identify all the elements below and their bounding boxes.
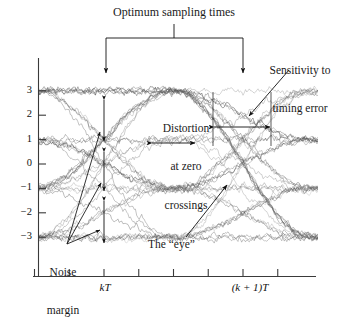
distortion-label: Distortion at zero crossings: [150, 96, 222, 238]
distortion-label-line1: Distortion: [150, 122, 222, 135]
y-tick-label-4: −1: [2, 181, 32, 192]
distortion-label-line3: crossings: [150, 199, 222, 212]
noise-margin-label-line1: Noise: [38, 266, 88, 279]
optimum-sampling-bracket: [106, 24, 243, 73]
x-axis-label-kT: kT: [78, 281, 132, 293]
sensitivity-label-line2: timing error: [258, 102, 342, 115]
y-tick-label-0: 3: [2, 84, 32, 95]
optimum-sampling-times-label: Optimum sampling times: [86, 6, 262, 19]
y-tick-label-1: 2: [2, 108, 32, 119]
sensitivity-label-line1: Sensitivity to: [258, 64, 342, 77]
distortion-label-line2: at zero: [150, 160, 222, 173]
y-tick-label-2: 1: [2, 133, 32, 144]
noise-margin-label-line2: margin: [38, 304, 88, 317]
y-tick-label-5: −2: [2, 206, 32, 217]
y-axis-ticks: [39, 91, 47, 237]
y-tick-label-3: 0: [2, 157, 32, 168]
y-tick-label-6: −3: [2, 230, 32, 241]
x-axis-label-k1T: (k + 1)T: [214, 281, 286, 293]
the-eye-label: The “eye”: [148, 238, 195, 251]
sensitivity-label: Sensitivity to timing error: [258, 38, 342, 141]
